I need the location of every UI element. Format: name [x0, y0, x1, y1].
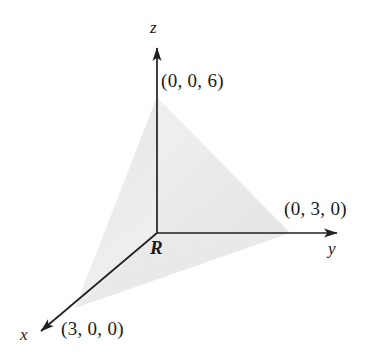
point-label-z-intercept: (0, 0, 6)	[161, 70, 224, 92]
region-label-R: R	[150, 237, 163, 259]
point-label-y-intercept: (0, 3, 0)	[284, 198, 347, 220]
shaded-region-R	[75, 97, 290, 308]
y-axis-label: y	[328, 239, 336, 259]
point-label-x-intercept: (3, 0, 0)	[61, 318, 124, 340]
figure-3d-plane-region: z y x (0, 0, 6) (0, 3, 0) (3, 0, 0) R	[0, 0, 372, 360]
x-axis-label: x	[20, 325, 28, 345]
coordinate-system-svg	[0, 0, 372, 360]
z-axis-label: z	[150, 18, 157, 38]
